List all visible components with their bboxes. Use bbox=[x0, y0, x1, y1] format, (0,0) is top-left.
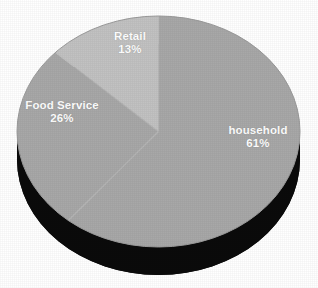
pie-label-household-value: 61% bbox=[216, 137, 300, 150]
pie-label-household: household 61% bbox=[216, 124, 300, 150]
pie-label-food-service: Food Service 26% bbox=[14, 99, 110, 125]
pie-label-food-service-name: Food Service bbox=[14, 99, 110, 112]
pie-label-food-service-value: 26% bbox=[14, 112, 110, 125]
pie-label-retail-name: Retail bbox=[98, 30, 162, 43]
pie-chart: Retail 13% Food Service 26% household 61… bbox=[0, 0, 318, 288]
pie-label-retail-value: 13% bbox=[98, 43, 162, 56]
pie-label-retail: Retail 13% bbox=[98, 30, 162, 56]
pie-label-household-name: household bbox=[216, 124, 300, 137]
